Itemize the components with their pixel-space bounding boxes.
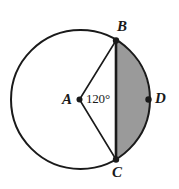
- point-label-c: C: [112, 165, 122, 180]
- point-dot-A: [77, 97, 83, 103]
- point-dot-C: [113, 156, 119, 162]
- geometry-figure: A B C D 120°: [0, 0, 179, 189]
- point-dot-D: [145, 96, 151, 102]
- shaded-segment-BDC: [116, 41, 150, 160]
- angle-measure-label: 120°: [86, 92, 110, 105]
- point-label-b: B: [117, 19, 127, 34]
- point-dot-B: [113, 37, 119, 43]
- point-label-d: D: [155, 91, 166, 106]
- radius-segment-AC: [80, 100, 117, 160]
- point-label-a: A: [62, 92, 72, 107]
